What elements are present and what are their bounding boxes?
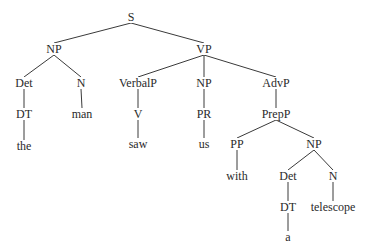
tree-edge-np3-n2	[314, 150, 333, 170]
tree-node-saw: saw	[128, 138, 149, 150]
tree-node-pp: PP	[229, 138, 244, 150]
tree-node-advp: AdvP	[261, 77, 290, 89]
tree-edge-n1-man	[81, 89, 82, 108]
tree-node-telescope: telescope	[310, 201, 357, 213]
tree-node-v: V	[133, 108, 144, 120]
tree-node-s: S	[127, 11, 136, 23]
tree-node-np2: NP	[195, 77, 212, 89]
tree-edge-vp-advp	[204, 55, 276, 77]
tree-node-a: a	[284, 231, 291, 243]
tree-edge-np1-det1	[24, 55, 54, 77]
tree-node-dt1: DT	[15, 108, 33, 120]
tree-node-det2: Det	[278, 170, 297, 182]
tree-node-verbalp: VerbalP	[118, 77, 158, 89]
tree-edge-s-vp	[131, 23, 204, 43]
tree-node-prepp: PrepP	[261, 108, 292, 120]
tree-node-us: us	[198, 138, 211, 150]
tree-node-np1: NP	[45, 43, 62, 55]
tree-edge-prepp-np3	[276, 120, 314, 138]
tree-node-n2: N	[328, 170, 339, 182]
tree-edge-s-np1	[54, 23, 131, 43]
tree-edge-np3-det2	[288, 150, 314, 170]
tree-node-det1: Det	[14, 77, 33, 89]
syntax-tree: SNPVPDetNVerbalPNPAdvPDTmanVPRPrepPthesa…	[0, 0, 366, 250]
tree-edge-prepp-pp	[237, 120, 276, 138]
tree-node-np3: NP	[305, 138, 322, 150]
tree-node-n1: N	[76, 77, 87, 89]
tree-edge-vp-verbalp	[138, 55, 204, 77]
tree-node-vp: VP	[195, 43, 212, 55]
tree-node-dt2: DT	[279, 201, 297, 213]
tree-node-the: the	[16, 140, 33, 152]
tree-node-man: man	[71, 108, 94, 120]
tree-edge-np1-n1	[54, 55, 81, 77]
tree-node-pr: PR	[196, 108, 213, 120]
tree-node-with: with	[225, 170, 248, 182]
